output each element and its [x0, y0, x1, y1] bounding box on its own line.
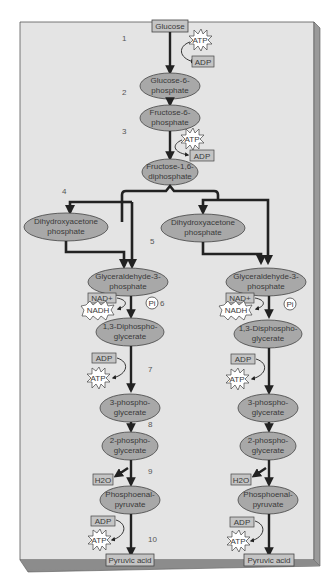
- svg-text:glycerate: glycerate: [114, 446, 147, 455]
- svg-text:ADP: ADP: [195, 58, 211, 67]
- svg-text:8: 8: [148, 420, 153, 429]
- glycolysis-diagram: Glucose 1 ATP ADP Glucose-6- phosphate 2…: [0, 0, 334, 586]
- svg-text:diphosphate: diphosphate: [148, 172, 192, 181]
- svg-text:ADP: ADP: [96, 354, 112, 363]
- svg-text:2-phospho-: 2-phospho-: [248, 436, 289, 445]
- svg-text:ADP: ADP: [95, 517, 111, 526]
- svg-text:4: 4: [62, 187, 67, 196]
- svg-text:Phosphoenal-: Phosphoenal-: [105, 490, 155, 499]
- svg-text:glycerate: glycerate: [252, 334, 285, 343]
- svg-text:1: 1: [122, 34, 127, 43]
- svg-text:ATP: ATP: [193, 36, 208, 45]
- svg-text:ATP: ATP: [91, 374, 106, 383]
- svg-text:Dihydroxyacetone: Dihydroxyacetone: [34, 217, 99, 226]
- svg-text:2-phospho-: 2-phospho-: [110, 436, 151, 445]
- svg-text:NAD+: NAD+: [229, 294, 251, 303]
- svg-text:NADH: NADH: [225, 306, 248, 315]
- svg-text:phosphate: phosphate: [247, 282, 285, 291]
- svg-text:Pyruvic acid: Pyruvic acid: [247, 556, 290, 565]
- svg-text:Glyceraldehyde-3-: Glyceraldehyde-3-: [95, 272, 161, 281]
- svg-text:Pi: Pi: [148, 299, 155, 308]
- svg-text:Fructose-1,6-: Fructose-1,6-: [146, 162, 194, 171]
- svg-text:glycerate: glycerate: [114, 408, 147, 417]
- svg-text:Dihydroxyacetone: Dihydroxyacetone: [171, 218, 236, 227]
- svg-text:ADP: ADP: [194, 152, 210, 161]
- svg-text:Glucose-6-: Glucose-6-: [150, 76, 189, 85]
- svg-text:ATP: ATP: [230, 375, 245, 384]
- svg-text:10: 10: [148, 535, 157, 544]
- svg-text:1,3-Disphospho-: 1,3-Disphospho-: [239, 324, 298, 333]
- svg-text:phosphate: phosphate: [47, 227, 85, 236]
- svg-text:9: 9: [148, 467, 153, 476]
- svg-text:Glyceraldehyde-3-: Glyceraldehyde-3-: [233, 272, 299, 281]
- svg-text:Fructose-6-: Fructose-6-: [150, 108, 191, 117]
- svg-text:phosphate: phosphate: [151, 86, 189, 95]
- svg-text:H2O: H2O: [233, 476, 249, 485]
- svg-text:3-phospho-: 3-phospho-: [248, 398, 289, 407]
- svg-text:glycerate: glycerate: [252, 446, 285, 455]
- svg-text:ATP: ATP: [231, 537, 246, 546]
- svg-text:H2O: H2O: [95, 476, 111, 485]
- glucose-label: Glucose: [155, 22, 185, 31]
- svg-text:3-phospho-: 3-phospho-: [110, 398, 151, 407]
- svg-text:1,3-Diphospho-: 1,3-Diphospho-: [103, 322, 158, 331]
- svg-text:glycerate: glycerate: [114, 332, 147, 341]
- svg-text:NADH: NADH: [87, 306, 110, 315]
- svg-text:pyruvate: pyruvate: [115, 500, 146, 509]
- svg-text:phosphate: phosphate: [184, 228, 222, 237]
- svg-text:Phosphoenal-: Phosphoenal-: [243, 490, 293, 499]
- svg-text:Pi: Pi: [286, 300, 293, 309]
- svg-text:phosphate: phosphate: [109, 282, 147, 291]
- svg-text:ATP: ATP: [92, 536, 107, 545]
- svg-text:7: 7: [148, 365, 153, 374]
- svg-text:ADP: ADP: [234, 518, 250, 527]
- svg-text:ATP: ATP: [185, 135, 200, 144]
- svg-text:6: 6: [160, 299, 165, 308]
- svg-text:NAD+: NAD+: [91, 294, 113, 303]
- svg-text:phosphate: phosphate: [151, 118, 189, 127]
- svg-text:pyruvate: pyruvate: [253, 500, 284, 509]
- svg-text:Pyruvic acid: Pyruvic acid: [108, 556, 151, 565]
- svg-text:glycerate: glycerate: [252, 408, 285, 417]
- svg-text:3: 3: [122, 127, 127, 136]
- svg-text:ADP: ADP: [235, 355, 251, 364]
- svg-text:5: 5: [150, 237, 155, 246]
- svg-text:2: 2: [122, 88, 127, 97]
